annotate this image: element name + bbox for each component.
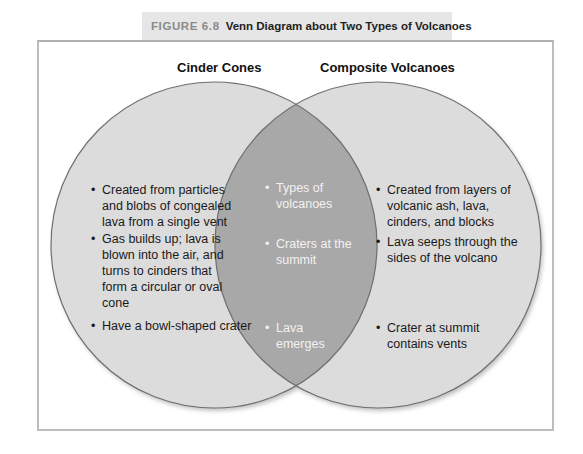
left-item: Have a bowl-shaped crater (91, 318, 262, 334)
overlap-item: Lava emerges (265, 320, 341, 352)
right-item: Crater at summit contains vents (376, 320, 497, 352)
right-item: Created from layers of volcanic ash, lav… (376, 182, 522, 230)
right-heading: Composite Volcanoes (320, 60, 455, 75)
left-heading: Cinder Cones (177, 60, 262, 75)
right-item: Lava seeps through the sides of the volc… (376, 234, 537, 266)
left-item: Created from particles and blobs of cong… (91, 182, 247, 230)
overlap-item: Types of volcanoes (265, 180, 346, 212)
left-item: Gas builds up; lava is blown into the ai… (91, 231, 232, 311)
overlap-item: Craters at the summit (265, 236, 361, 268)
